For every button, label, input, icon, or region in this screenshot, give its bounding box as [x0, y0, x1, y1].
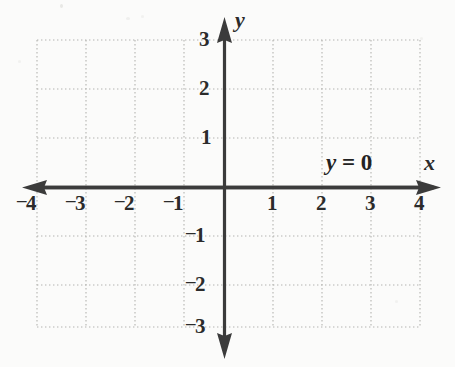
y-tick-label-1: 1 — [201, 127, 211, 148]
minus-sign: – — [115, 190, 124, 209]
minus-sign: – — [186, 222, 195, 241]
y-tick-digit: 3 — [195, 314, 205, 338]
scan-speckle — [18, 60, 21, 63]
x-tick-digit: 4 — [26, 191, 36, 215]
x-tick-digit: 1 — [173, 191, 183, 215]
plot-background — [0, 0, 455, 367]
scan-speckle — [60, 4, 63, 8]
scan-speckle — [420, 37, 423, 40]
x-tick-label-4: 4 — [414, 193, 424, 214]
minus-sign: – — [66, 190, 75, 209]
scan-speckle — [126, 17, 130, 20]
x-tick-label-1: 1 — [267, 193, 277, 214]
coordinate-plane — [0, 0, 455, 367]
y-tick-label--1: –1 — [186, 225, 205, 246]
minus-sign: – — [186, 271, 195, 290]
y-tick-label--2: –2 — [186, 274, 205, 295]
x-tick-digit: 3 — [75, 191, 85, 215]
x-tick-label--1: –1 — [164, 193, 183, 214]
scan-speckle — [395, 300, 398, 303]
y-tick-label--3: –3 — [186, 316, 205, 337]
y-tick-digit: 2 — [195, 272, 205, 296]
x-tick-digit: 2 — [124, 191, 134, 215]
x-tick-label--3: –3 — [66, 193, 85, 214]
x-tick-label-2: 2 — [316, 193, 326, 214]
y-tick-digit: 1 — [195, 223, 205, 247]
minus-sign: – — [186, 313, 195, 332]
scan-speckle — [141, 15, 144, 18]
x-tick-label-3: 3 — [365, 193, 375, 214]
y-tick-label-2: 2 — [199, 78, 209, 99]
y-axis-label: y — [235, 9, 245, 31]
minus-sign: – — [164, 190, 173, 209]
x-tick-label--2: –2 — [115, 193, 134, 214]
equation-annotation: y = 0 — [326, 151, 372, 174]
y-tick-label-3: 3 — [199, 29, 209, 50]
x-axis-label: x — [424, 152, 435, 174]
equation-variable: y — [326, 150, 336, 175]
equation-body: = 0 — [342, 150, 372, 175]
minus-sign: – — [17, 190, 26, 209]
x-tick-label--4: –4 — [17, 193, 36, 214]
